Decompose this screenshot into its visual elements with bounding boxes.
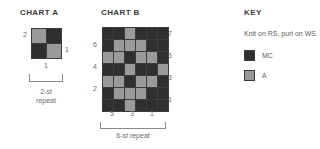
chart-b-row-label-2: 2 bbox=[85, 85, 97, 92]
chart-b-cell-r5-c1 bbox=[114, 88, 124, 99]
chart-b-cell-r1-c5 bbox=[158, 40, 168, 51]
chart-b-cell-r1-c0 bbox=[103, 40, 113, 51]
chart-b-cell-r4-c3 bbox=[136, 76, 146, 87]
chart-b-cell-r0-c0 bbox=[103, 28, 113, 39]
key-title: KEY bbox=[244, 8, 262, 17]
chart-b-repeat-label: 6-st repeat bbox=[100, 131, 166, 140]
key-note: Knit on RS, purl on WS. bbox=[244, 30, 318, 37]
chart-a-title: CHART A bbox=[20, 8, 59, 17]
chart-b-cell-r3-c4 bbox=[147, 64, 157, 75]
chart-b-cell-r5-c4 bbox=[147, 88, 157, 99]
chart-b-cell-r0-c3 bbox=[136, 28, 146, 39]
chart-b-cell-r4-c2 bbox=[125, 76, 135, 87]
chart-a-repeat-label: 2-st repeat bbox=[20, 87, 72, 106]
chart-b-cell-r2-c0 bbox=[103, 52, 113, 63]
chart-b-cell-r5-c2 bbox=[125, 88, 135, 99]
chart-b-row-label-7: 7 bbox=[168, 30, 180, 37]
chart-b-row-label-5: 5 bbox=[168, 52, 180, 59]
chart-b-row-label-3: 3 bbox=[168, 74, 180, 81]
chart-b-cell-r4-c4 bbox=[147, 76, 157, 87]
key-item-a: A bbox=[244, 70, 267, 81]
chart-b-cell-r5-c0 bbox=[103, 88, 113, 99]
chart-b-cell-r2-c4 bbox=[147, 52, 157, 63]
chart-b-col-label-3: 3 bbox=[125, 110, 139, 117]
chart-a-col-label-1: 1 bbox=[34, 62, 58, 69]
swatch-a-icon bbox=[244, 70, 255, 81]
chart-a-cell-r1-c1 bbox=[47, 44, 61, 58]
chart-b-cell-r4-c1 bbox=[114, 76, 124, 87]
chart-a-grid bbox=[31, 28, 62, 59]
swatch-mc-icon bbox=[244, 50, 255, 61]
chart-b-title: CHART B bbox=[101, 8, 140, 17]
chart-a-row-label-2: 2 bbox=[10, 31, 27, 38]
chart-a-panel: CHART A bbox=[20, 8, 59, 17]
key-label-a: A bbox=[262, 72, 267, 79]
chart-b-cell-r2-c3 bbox=[136, 52, 146, 63]
chart-b-row-label-4: 4 bbox=[85, 63, 97, 70]
chart-b-cell-r5-c3 bbox=[136, 88, 146, 99]
chart-b-cell-r0-c4 bbox=[147, 28, 157, 39]
chart-b-panel: CHART B bbox=[101, 8, 140, 17]
chart-b-cell-r4-c0 bbox=[103, 76, 113, 87]
chart-a-row-label-1: 1 bbox=[65, 46, 82, 53]
chart-b-cell-r6-c5 bbox=[158, 100, 168, 111]
chart-b-cell-r1-c3 bbox=[136, 40, 146, 51]
chart-b-col-label-1: 1 bbox=[145, 110, 159, 117]
chart-a-repeat-bracket bbox=[29, 74, 63, 82]
chart-b-cell-r5-c5 bbox=[158, 88, 168, 99]
chart-b-cell-r0-c5 bbox=[158, 28, 168, 39]
chart-b-cell-r3-c5 bbox=[158, 64, 168, 75]
key-label-mc: MC bbox=[262, 52, 273, 59]
key-item-mc: MC bbox=[244, 50, 273, 61]
chart-sheet: CHART A 2 1 1 2-st repeat CHART B 6 4 2 … bbox=[0, 0, 320, 149]
chart-b-cell-r0-c1 bbox=[114, 28, 124, 39]
chart-b-cell-r1-c1 bbox=[114, 40, 124, 51]
chart-b-row-label-1: 1 bbox=[168, 96, 180, 103]
chart-a-cell-r1-c0 bbox=[32, 44, 46, 58]
chart-b-repeat-bracket bbox=[100, 122, 166, 129]
chart-b-cell-r2-c2 bbox=[125, 52, 135, 63]
chart-b-grid bbox=[102, 27, 169, 112]
chart-b-cell-r1-c2 bbox=[125, 40, 135, 51]
chart-b-cell-r3-c2 bbox=[125, 64, 135, 75]
chart-b-cell-r3-c1 bbox=[114, 64, 124, 75]
key-panel: KEY bbox=[244, 8, 262, 17]
chart-b-cell-r4-c5 bbox=[158, 76, 168, 87]
chart-b-row-label-6: 6 bbox=[85, 41, 97, 48]
chart-b-cell-r2-c1 bbox=[114, 52, 124, 63]
chart-b-col-label-5: 5 bbox=[105, 110, 119, 117]
chart-a-cell-r0-c0 bbox=[32, 29, 46, 43]
chart-b-cell-r2-c5 bbox=[158, 52, 168, 63]
chart-a-cell-r0-c1 bbox=[47, 29, 61, 43]
chart-b-cell-r3-c0 bbox=[103, 64, 113, 75]
chart-b-cell-r0-c2 bbox=[125, 28, 135, 39]
chart-b-cell-r3-c3 bbox=[136, 64, 146, 75]
chart-b-cell-r1-c4 bbox=[147, 40, 157, 51]
